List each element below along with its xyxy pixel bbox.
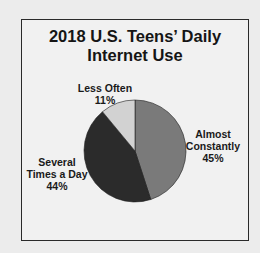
- label-less-often-name: Less Often: [70, 82, 140, 94]
- pie-chart: [0, 0, 260, 253]
- label-less-often-value: 11%: [70, 94, 140, 106]
- label-almost-constantly: Almost Constantly 45%: [178, 128, 248, 164]
- label-almost-constantly-value: 45%: [178, 152, 248, 164]
- pie-slices: [84, 100, 186, 202]
- label-almost-constantly-line-1: Almost: [178, 128, 248, 140]
- label-less-often: Less Often 11%: [70, 82, 140, 106]
- label-several-times-line-2: Times a Day: [24, 168, 90, 180]
- label-almost-constantly-line-2: Constantly: [178, 140, 248, 152]
- label-several-times: Several Times a Day 44%: [24, 156, 90, 192]
- label-several-times-value: 44%: [24, 180, 90, 192]
- label-several-times-line-1: Several: [24, 156, 90, 168]
